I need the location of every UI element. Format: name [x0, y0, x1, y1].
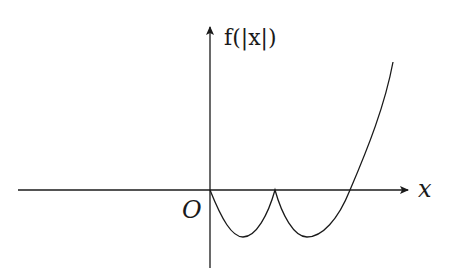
- function-curve: [210, 62, 393, 237]
- function-graph: f(|x|) x O: [0, 0, 454, 272]
- origin-label: O: [182, 196, 202, 224]
- x-axis-label: x: [418, 175, 432, 203]
- y-axis-label: f(|x|): [224, 25, 277, 51]
